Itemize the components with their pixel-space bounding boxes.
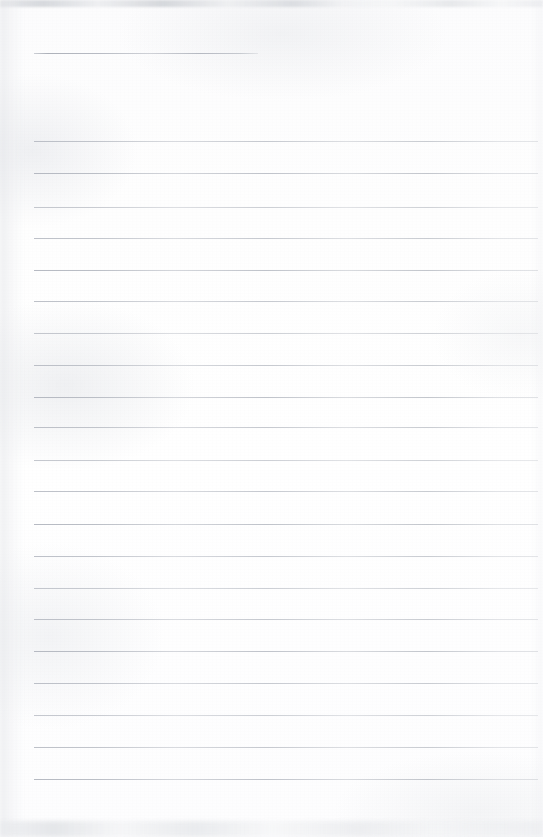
paper-background <box>0 0 543 837</box>
scanned-page <box>0 0 543 837</box>
